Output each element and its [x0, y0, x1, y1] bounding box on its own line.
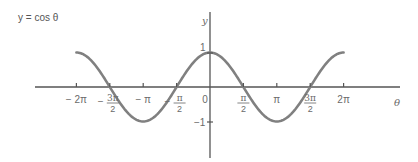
svg-text:2: 2 [177, 104, 182, 114]
x-tick-label: 0 [202, 94, 208, 105]
svg-text:π: π [177, 93, 183, 103]
svg-text:− 2π: − 2π [66, 94, 87, 105]
x-tick-label: −3π2 [98, 93, 119, 114]
y-tick-label-1: 1 [200, 42, 206, 53]
svg-text:− π: − π [135, 94, 151, 105]
svg-text:π: π [240, 93, 246, 103]
x-tick-label: 3π2 [304, 93, 316, 114]
svg-text:3π: 3π [304, 93, 316, 103]
y-axis-label: y [201, 15, 208, 26]
y-tick-label-neg1: −1 [194, 117, 206, 128]
svg-text:2: 2 [110, 104, 115, 114]
x-axis-label: θ [394, 97, 400, 108]
x-tick-label: −π2 [165, 93, 186, 114]
x-tick-label: 2π [337, 94, 350, 105]
svg-text:2: 2 [241, 104, 246, 114]
svg-text:0: 0 [202, 94, 208, 105]
x-tick-labels: − 2π−3π2− π−π20π2π3π22π [66, 93, 350, 114]
x-tick-label: − π [135, 94, 151, 105]
svg-text:3π: 3π [107, 93, 119, 103]
svg-text:−: − [98, 96, 104, 107]
svg-text:2: 2 [308, 104, 313, 114]
x-tick-label: π [273, 94, 280, 105]
svg-text:−: − [165, 96, 171, 107]
cosine-graph: − 2π−3π2− π−π20π2π3π22π 1 −1 y θ [0, 0, 418, 162]
svg-text:π: π [273, 94, 280, 105]
svg-text:2π: 2π [337, 94, 350, 105]
x-tick-label: − 2π [66, 94, 87, 105]
